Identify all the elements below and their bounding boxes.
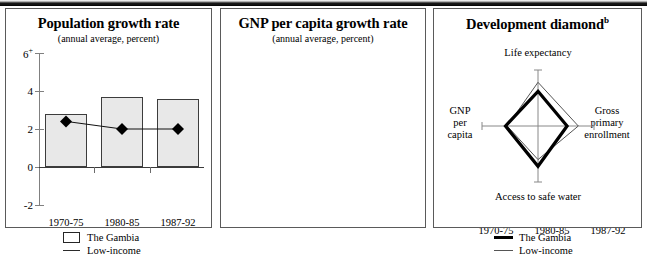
panel-title-diamond-text: Development diamond (466, 16, 604, 32)
radar-polygon-lowincome (507, 82, 578, 159)
legend-left-item-1: Low-income (60, 244, 141, 257)
radar-chart-development-diamond: Life expectancy GNP per capita Gross pri… (444, 51, 632, 201)
legend-right-label-0: The Gambia (519, 232, 571, 243)
y-label-4: 4 (28, 85, 34, 97)
panel-title-gnp: GNP per capita growth rate (221, 15, 425, 32)
x-label-population-1: 1980-85 (105, 217, 140, 228)
x-label-population-0: 1970-75 (49, 217, 84, 228)
plot-area-population: 6+ 4 2 0 -2 1970-75 1980-85 1987-92 (39, 53, 204, 205)
panel-gnp-per-capita-growth-rate: GNP per capita growth rate (annual avera… (220, 8, 426, 228)
legend-right: The Gambia Low-income (492, 231, 573, 257)
y-label-0: 0 (28, 161, 34, 173)
panel-subtitle-population: (annual average, percent) (6, 33, 211, 44)
y-label-minus-2: -2 (24, 199, 33, 211)
radar-polygon-gambia (506, 91, 568, 166)
legend-swatch-line-icon (60, 250, 82, 251)
panel-title-population: Population growth rate (6, 15, 211, 32)
legend-swatch-thin-line-icon (492, 250, 514, 251)
panel-population-growth-rate: Population growth rate (annual average, … (5, 8, 212, 228)
page-header-strip (0, 0, 647, 6)
legend-left: The Gambia Low-income (60, 231, 141, 257)
legend-right-item-0: The Gambia (492, 231, 573, 244)
y-label-2: 2 (28, 123, 34, 135)
line-series-lowincome-population (39, 53, 204, 205)
panel-subtitle-gnp: (annual average, percent) (221, 33, 425, 44)
legend-right-item-1: Low-income (492, 244, 573, 257)
legend-left-item-0: The Gambia (60, 231, 141, 244)
radar-svg (444, 51, 632, 201)
panel-development-diamond: Development diamondb Life expectancy GNP… (433, 8, 642, 228)
legend-swatch-thick-line-icon (492, 236, 514, 239)
y-label-6: 6+ (23, 46, 33, 60)
legend-swatch-box-icon (60, 232, 82, 243)
panel-title-diamond: Development diamondb (434, 15, 641, 33)
y-tick-minus-2 (35, 205, 44, 206)
legend-right-label-1: Low-income (519, 245, 573, 256)
legend-left-label-0: The Gambia (87, 232, 139, 243)
panel-title-diamond-superscript: b (604, 15, 609, 25)
legend-left-label-1: Low-income (87, 245, 141, 256)
x-label-population-2: 1987-92 (161, 217, 196, 228)
